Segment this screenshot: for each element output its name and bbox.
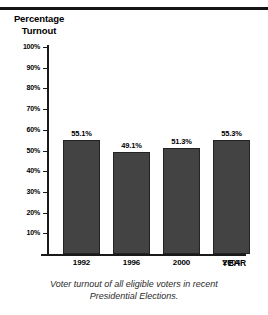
bar-chart-plot-area: 10%20%30%40%50%60%70%80%90%100% 55.1%49.… xyxy=(0,0,268,275)
y-axis-tick-label: 80% xyxy=(0,84,40,91)
y-axis-tick xyxy=(43,109,49,110)
y-axis-tick-label: 50% xyxy=(0,147,40,154)
y-axis-tick-label: 40% xyxy=(0,167,40,174)
y-axis-tick-label: 70% xyxy=(0,105,40,112)
bar-value-label: 55.3% xyxy=(206,129,257,138)
x-axis-tick-label: 2000 xyxy=(156,258,207,267)
y-axis-tick xyxy=(43,192,49,193)
bar xyxy=(63,140,100,254)
y-axis-tick xyxy=(43,47,49,48)
y-axis-tick xyxy=(43,151,49,152)
y-axis-tick-label: 20% xyxy=(0,209,40,216)
y-axis-tick xyxy=(43,130,49,131)
x-axis-tick-label: 1992 xyxy=(56,258,107,267)
bar xyxy=(213,140,250,254)
bar-value-label: 49.1% xyxy=(106,141,157,150)
y-axis-tick xyxy=(43,213,49,214)
x-axis-line xyxy=(41,254,246,256)
bar-value-label: 55.1% xyxy=(56,129,107,138)
figure-caption-line2: Presidential Elections. xyxy=(14,291,254,303)
y-axis-tick-label: 60% xyxy=(0,126,40,133)
y-axis-tick xyxy=(43,88,49,89)
figure-caption: Voter turnout of all eligible voters in … xyxy=(14,279,254,302)
figure-caption-line1: Voter turnout of all eligible voters in … xyxy=(14,279,254,291)
y-axis-tick-label: 90% xyxy=(0,64,40,71)
y-axis-tick xyxy=(43,171,49,172)
y-axis-tick xyxy=(43,68,49,69)
y-axis-tick-label: 30% xyxy=(0,188,40,195)
bar xyxy=(163,148,200,254)
x-axis-tick-label: 1996 xyxy=(106,258,157,267)
y-axis-tick-label: 100% xyxy=(0,43,40,50)
y-axis-tick xyxy=(43,233,49,234)
bar xyxy=(113,152,150,254)
bar-value-label: 51.3% xyxy=(156,137,207,146)
x-axis-title: YEAR xyxy=(222,258,266,268)
y-axis-tick-label: 10% xyxy=(0,229,40,236)
